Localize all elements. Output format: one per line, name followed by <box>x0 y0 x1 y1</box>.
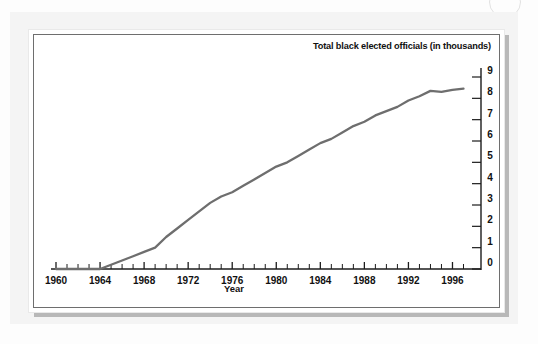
x-axis-label: Year <box>224 283 244 294</box>
x-tick-label: 1984 <box>309 275 332 286</box>
y-tick-label: 0 <box>487 257 493 268</box>
data-series-group <box>56 89 463 269</box>
y-tick-label: 6 <box>487 129 493 140</box>
x-tick-label: 1992 <box>397 275 420 286</box>
x-tick-label: 1964 <box>89 275 112 286</box>
x-tick-label: 1988 <box>353 275 376 286</box>
y-tick-label: 5 <box>487 150 493 161</box>
x-tick-label: 1960 <box>45 275 68 286</box>
y-tick-label: 7 <box>487 108 493 119</box>
y-tick-label: 9 <box>487 65 493 76</box>
x-tick-label: 1980 <box>265 275 288 286</box>
x-tick-label: 1972 <box>177 275 200 286</box>
x-tick-label: 1968 <box>133 275 156 286</box>
y-tick-label: 1 <box>487 236 493 247</box>
line-chart: 1960196419681972197619801984198819921996… <box>29 30 504 312</box>
y-axis: 0123456789 <box>472 65 493 270</box>
series-line <box>56 89 463 269</box>
y-tick-label: 4 <box>487 172 493 183</box>
x-tick-label: 1996 <box>441 275 464 286</box>
figure-frame: Total black elected officials (in thousa… <box>28 29 505 313</box>
plot-area: Total black elected officials (in thousa… <box>29 30 504 312</box>
y-tick-label: 8 <box>487 86 493 97</box>
y-tick-label: 2 <box>487 214 493 225</box>
y-tick-label: 3 <box>487 193 493 204</box>
